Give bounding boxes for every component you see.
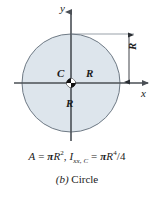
property-formulas: A = πR2, Ixx, C = πR4/4 <box>0 149 154 165</box>
centroid-label: C <box>57 68 64 79</box>
inertia-equals: = <box>88 150 100 162</box>
radius-label-right: R <box>86 68 93 79</box>
inertia-divisor: /4 <box>117 150 126 162</box>
y-axis-label: y <box>60 3 65 14</box>
x-axis-label: x <box>141 88 146 99</box>
diagram-area: y x C R R R <box>0 0 154 145</box>
circle-diagram-svg <box>0 0 154 145</box>
radius-label-below: R <box>66 98 73 109</box>
radius-dimension-label: R <box>127 43 138 50</box>
area-equals: = <box>35 150 47 162</box>
inertia-subscript: xx, C <box>73 157 88 165</box>
figure-circle-properties: y x C R R R A = πR2, Ixx, C = πR4/4 (b) … <box>0 0 154 197</box>
caption-text: Circle <box>71 173 98 185</box>
figure-caption: (b) Circle <box>0 173 154 185</box>
caption-marker: (b) <box>56 173 69 185</box>
